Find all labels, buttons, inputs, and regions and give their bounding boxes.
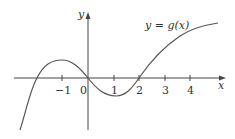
origin-label: 0 <box>80 84 87 97</box>
y-axis-arrow-icon <box>86 12 91 19</box>
x-tick-label-3: 3 <box>162 84 169 97</box>
function-curve <box>20 23 218 130</box>
function-label: y = g(x) <box>144 19 189 32</box>
y-axis-label: y <box>77 8 85 21</box>
plot-canvas: −1 0 1 2 3 4 x y y = g(x) <box>0 0 235 139</box>
x-tick-label-neg1: −1 <box>55 84 71 97</box>
x-axis-label: x <box>218 79 225 92</box>
graph-figure: −1 0 1 2 3 4 x y y = g(x) <box>0 0 235 139</box>
x-tick-label-2: 2 <box>136 84 143 97</box>
x-tick-label-1: 1 <box>111 84 118 97</box>
x-tick-label-4: 4 <box>187 84 194 97</box>
